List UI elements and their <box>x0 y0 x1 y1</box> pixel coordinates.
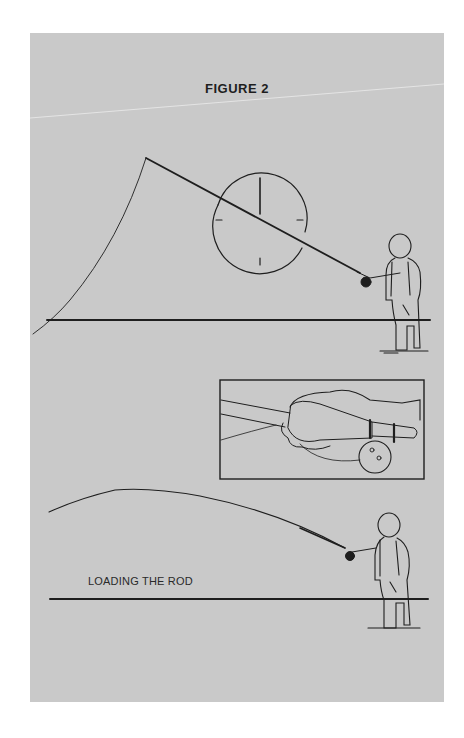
figure-caption: LOADING THE ROD <box>88 575 193 587</box>
figure-text-layer: FIGURE 2 <box>30 33 444 702</box>
figure-title: FIGURE 2 <box>30 81 444 96</box>
